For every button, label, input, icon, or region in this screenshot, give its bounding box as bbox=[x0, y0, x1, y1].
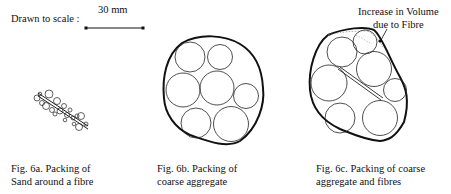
caption-fig-6b: Fig. 6b. Packing of coarse aggregate bbox=[157, 162, 237, 188]
caption-6c-line-2: aggregate and fibres bbox=[316, 175, 425, 188]
caption-6b-line-1: Fig. 6b. Packing of bbox=[157, 162, 237, 175]
fig-6b-coarse-aggregate bbox=[164, 36, 264, 144]
increase-volume-annotation: Increase in Volume due to Fibre bbox=[358, 5, 439, 31]
caption-6a-line-2: Sand around a fibre bbox=[11, 175, 94, 188]
annotation-line-1: Increase in Volume bbox=[358, 5, 439, 18]
caption-6c-line-1: Fig. 6c. Packing of coarse bbox=[316, 162, 425, 175]
caption-6b-line-2: coarse aggregate bbox=[157, 175, 237, 188]
fig-6c-aggregate-fibres bbox=[310, 28, 407, 141]
fig-6a-sand-fibre bbox=[34, 90, 88, 131]
caption-fig-6c: Fig. 6c. Packing of coarse aggregate and… bbox=[316, 162, 425, 188]
caption-fig-6a: Fig. 6a. Packing of Sand around a fibre bbox=[11, 162, 94, 188]
scale-bar bbox=[85, 27, 144, 29]
caption-6a-line-1: Fig. 6a. Packing of bbox=[11, 162, 94, 175]
annotation-line-2: due to Fibre bbox=[358, 18, 439, 31]
